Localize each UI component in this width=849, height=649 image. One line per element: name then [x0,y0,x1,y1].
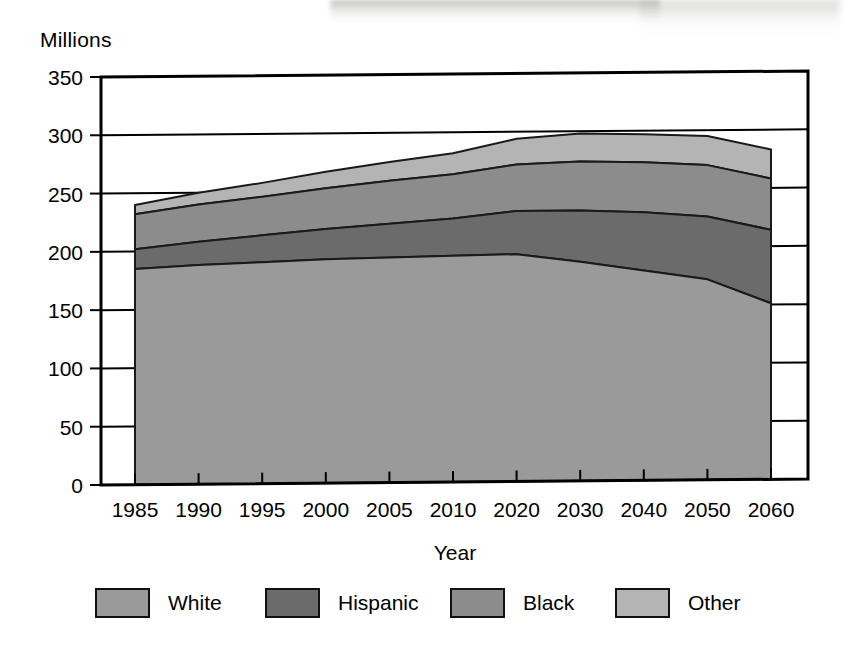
legend-label-other: Other [688,591,741,615]
x-tick-label-2060: 2060 [748,498,795,521]
legend-swatch-white [95,588,150,618]
y-tick-label-150: 150 [48,299,83,322]
x-tick-label-2010: 2010 [430,498,477,521]
x-tick-label-2000: 2000 [302,498,349,521]
legend-item-hispanic[interactable]: Hispanic [265,588,450,618]
x-tick-label-2050: 2050 [684,498,731,521]
y-tick-label-350: 350 [48,66,83,89]
y-tick-label-50: 50 [60,416,83,439]
legend-item-black[interactable]: Black [450,588,615,618]
stacked-area-chart: 050100150200250300350 198519901995200020… [0,0,849,649]
x-tick-label-2005: 2005 [366,498,413,521]
x-tick-label-1985: 1985 [112,498,159,521]
legend-swatch-hispanic [265,588,320,618]
gridline-300 [101,129,808,135]
legend-item-other[interactable]: Other [615,588,741,618]
legend-item-white[interactable]: White [95,588,265,618]
x-tick-label-2030: 2030 [557,498,604,521]
legend-swatch-black [450,588,505,618]
y-axis-ticks [90,77,101,485]
chart-legend: White Hispanic Black Other [95,582,755,624]
y-tick-label-0: 0 [71,474,83,497]
y-tick-label-250: 250 [48,183,83,206]
y-tick-label-100: 100 [48,357,83,380]
x-tick-label-1995: 1995 [239,498,286,521]
x-axis-title: Year [434,541,476,564]
x-tick-label-2040: 2040 [620,498,667,521]
y-tick-label-200: 200 [48,241,83,264]
legend-label-black: Black [523,591,574,615]
chart-page: Millions 050100150200250300350 198519901… [0,0,849,649]
legend-swatch-other [615,588,670,618]
area-bands-group [135,134,771,485]
legend-label-white: White [168,591,222,615]
y-axis-tick-labels: 050100150200250300350 [48,66,83,497]
y-tick-label-300: 300 [48,124,83,147]
x-tick-label-1990: 1990 [175,498,222,521]
area-band-white [135,254,771,485]
legend-label-hispanic: Hispanic [338,591,419,615]
x-tick-label-2020: 2020 [493,498,540,521]
x-axis-tick-labels: 1985199019952000200520102020203020402050… [112,498,795,521]
